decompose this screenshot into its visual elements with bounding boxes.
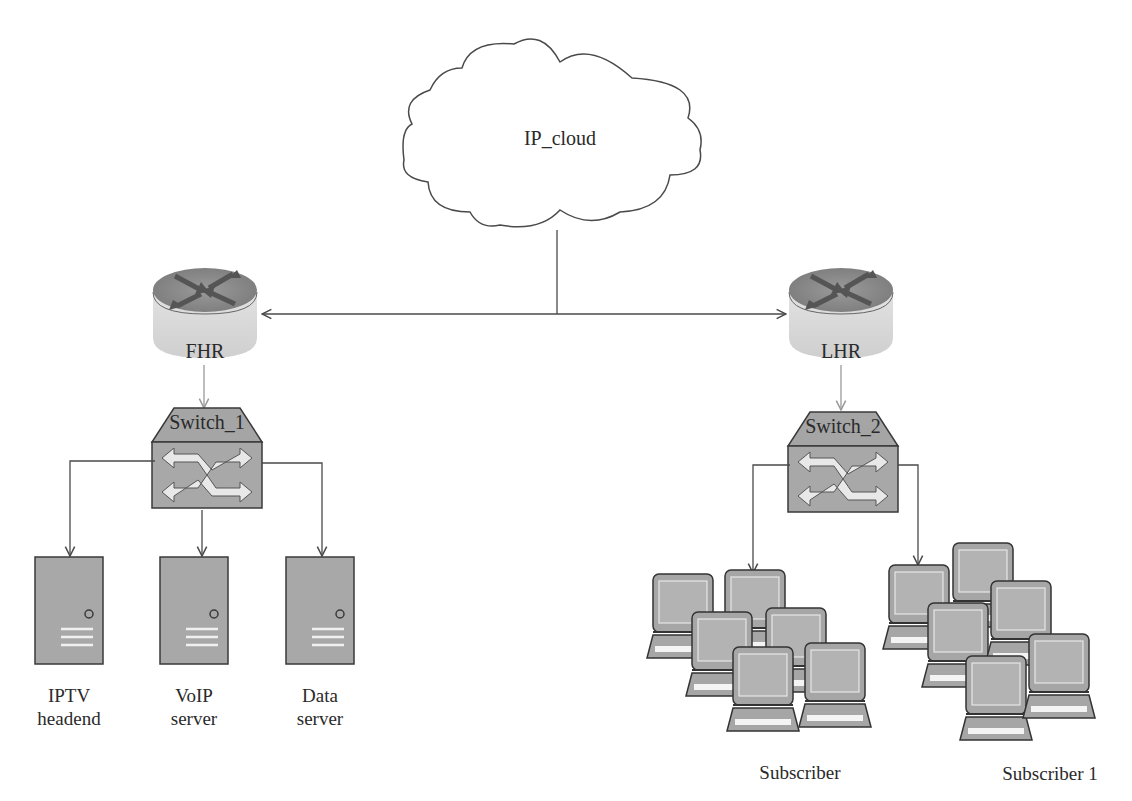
iptv-headend-server-icon <box>35 557 103 664</box>
switch-1-label: Switch_1 <box>152 410 262 434</box>
data-server-label-line1: Data <box>270 684 370 707</box>
data-server-label: Data server <box>270 684 370 730</box>
subscriber-laptops-icon <box>647 570 871 731</box>
data-server-icon <box>286 557 354 664</box>
ip-cloud-label: IP_cloud <box>500 126 620 150</box>
iptv-headend-label-line2: headend <box>19 707 119 730</box>
subscriber-label: Subscriber <box>740 761 860 784</box>
iptv-headend-label: IPTV headend <box>19 684 119 730</box>
voip-server-label-line1: VoIP <box>144 684 244 707</box>
fhr-label: FHR <box>165 339 245 363</box>
subscriber-1-laptops-icon <box>883 543 1095 740</box>
switch-2-label: Switch_2 <box>788 414 898 438</box>
voip-server-icon <box>160 557 228 664</box>
iptv-headend-label-line1: IPTV <box>19 684 119 707</box>
network-diagram <box>0 0 1132 801</box>
voip-server-label: VoIP server <box>144 684 244 730</box>
data-server-label-line2: server <box>270 707 370 730</box>
voip-server-label-line2: server <box>144 707 244 730</box>
subscriber-1-label: Subscriber 1 <box>985 762 1115 785</box>
lhr-label: LHR <box>801 339 881 363</box>
